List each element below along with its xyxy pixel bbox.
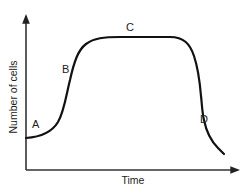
x-axis-label: Time bbox=[122, 174, 145, 186]
label-c: C bbox=[126, 21, 134, 33]
label-b: B bbox=[62, 63, 69, 75]
label-d: D bbox=[200, 113, 208, 125]
y-axis-label: Number of cells bbox=[7, 61, 19, 134]
growth-curve-chart: A B C D Time Number of cells bbox=[0, 0, 249, 195]
label-a: A bbox=[32, 118, 40, 130]
growth-curve-line bbox=[26, 37, 224, 154]
